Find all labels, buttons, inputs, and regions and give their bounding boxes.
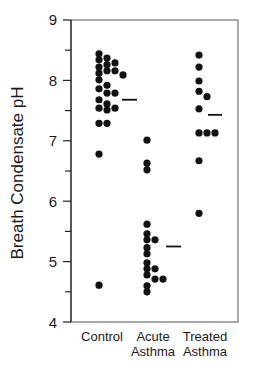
data-point bbox=[143, 221, 150, 228]
data-point bbox=[203, 93, 210, 100]
data-point bbox=[111, 105, 118, 112]
data-points bbox=[95, 50, 218, 295]
data-point bbox=[143, 137, 150, 144]
data-point bbox=[195, 157, 202, 164]
y-axis-ticks bbox=[63, 20, 71, 322]
category-label-acute-asthma: Acute Asthma bbox=[128, 329, 178, 359]
data-point bbox=[95, 96, 102, 103]
data-point bbox=[103, 54, 110, 61]
data-point bbox=[143, 288, 150, 295]
category-label-acute-line1: Acute bbox=[128, 329, 178, 344]
data-point bbox=[195, 105, 202, 112]
data-point bbox=[95, 105, 102, 112]
tick-label-7: 7 bbox=[49, 132, 57, 149]
data-point bbox=[195, 77, 202, 84]
data-point bbox=[143, 166, 150, 173]
data-point bbox=[95, 76, 102, 83]
data-point bbox=[211, 129, 218, 136]
category-label-treated-asthma: Treated Asthma bbox=[179, 329, 231, 359]
data-point bbox=[95, 150, 102, 157]
data-point bbox=[151, 265, 158, 272]
data-point bbox=[95, 85, 102, 92]
category-label-control-text: Control bbox=[80, 329, 124, 344]
data-point bbox=[159, 276, 166, 283]
y-axis-tick-labels: 9 8 7 6 5 4 bbox=[49, 11, 57, 331]
data-point bbox=[151, 276, 158, 283]
data-point bbox=[95, 282, 102, 289]
data-point bbox=[103, 82, 110, 89]
data-point bbox=[95, 120, 102, 127]
data-point bbox=[143, 250, 150, 257]
data-point bbox=[95, 56, 102, 63]
data-point bbox=[203, 129, 210, 136]
category-label-control: Control bbox=[80, 329, 124, 344]
data-point bbox=[103, 89, 110, 96]
data-point bbox=[195, 129, 202, 136]
data-point bbox=[195, 210, 202, 217]
median-bars bbox=[122, 100, 222, 247]
tick-label-6: 6 bbox=[49, 193, 57, 210]
tick-label-4: 4 bbox=[49, 314, 57, 331]
data-point bbox=[143, 271, 150, 278]
data-point bbox=[111, 67, 118, 74]
data-point bbox=[95, 70, 102, 77]
data-point bbox=[111, 59, 118, 66]
tick-label-5: 5 bbox=[49, 253, 57, 270]
data-point bbox=[143, 160, 150, 167]
category-label-acute-line2: Asthma bbox=[128, 344, 178, 359]
data-point bbox=[103, 120, 110, 127]
data-point bbox=[151, 236, 158, 243]
data-point bbox=[143, 236, 150, 243]
y-axis-label: Breath Condensate pH bbox=[4, 60, 32, 285]
data-point bbox=[119, 71, 126, 78]
data-point bbox=[195, 88, 202, 95]
data-point bbox=[103, 67, 110, 74]
tick-label-8: 8 bbox=[49, 72, 57, 89]
data-point bbox=[195, 64, 202, 71]
category-label-treated-line2: Asthma bbox=[179, 344, 231, 359]
dot-plot-chart: 9 8 7 6 5 4 bbox=[0, 0, 253, 373]
data-point bbox=[195, 51, 202, 58]
tick-label-9: 9 bbox=[49, 11, 57, 28]
y-axis-label-text: Breath Condensate pH bbox=[8, 86, 28, 259]
data-point bbox=[103, 106, 110, 113]
category-label-treated-line1: Treated bbox=[179, 329, 231, 344]
data-point bbox=[111, 89, 118, 96]
